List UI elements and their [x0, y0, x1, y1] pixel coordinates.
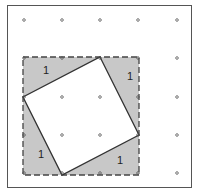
triangle-area-label: 1 [43, 64, 49, 76]
triangle-area-label: 1 [117, 154, 123, 166]
geoboard-diagram: 1111 [0, 0, 199, 191]
triangle-area-label: 1 [38, 148, 44, 160]
triangle-area-label: 1 [127, 70, 133, 82]
